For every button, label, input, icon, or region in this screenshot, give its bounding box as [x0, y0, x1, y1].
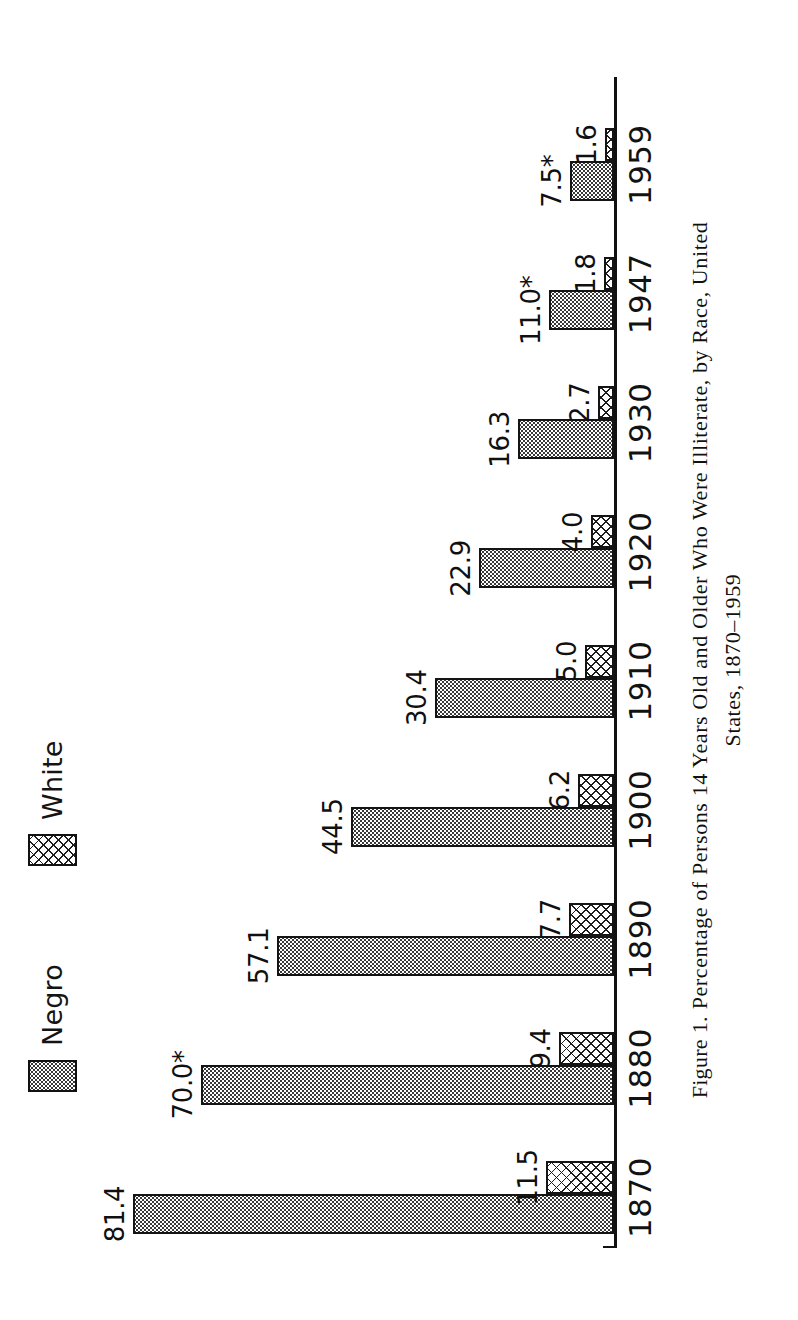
- bar-white: 4.0: [591, 515, 615, 548]
- plot-area: 81.411.570.0*9.457.17.744.56.230.45.022.…: [112, 78, 617, 1240]
- bar-group: 11.0*1.8: [109, 207, 614, 336]
- x-tick-label: 1880: [622, 1028, 658, 1109]
- legend-label-negro: Negro: [37, 964, 68, 1046]
- bar-group: 44.56.2: [109, 724, 614, 853]
- bar-white: 7.7: [569, 903, 615, 936]
- bar-group: 16.32.7: [109, 336, 614, 465]
- bar-value-label-negro: 22.9: [446, 540, 476, 597]
- scanned-figure-page: Negro White 81.411.570.0*9.457.17.744.56…: [0, 0, 798, 1320]
- legend-item-negro: Negro: [22, 964, 82, 1092]
- bar-group: 22.94.0: [109, 465, 614, 594]
- bar-value-label-negro: 7.5*: [537, 155, 567, 208]
- bar-white: 11.5: [546, 1161, 614, 1194]
- bar-value-label-white: 1.8: [571, 254, 601, 294]
- bar-group: 81.411.5: [109, 1111, 614, 1240]
- bar-group: 70.0*9.4: [109, 982, 614, 1111]
- bar-white: 1.6: [605, 128, 614, 161]
- bar-negro: 16.3: [518, 419, 614, 459]
- bar-negro: 30.4: [435, 678, 615, 718]
- bar-negro: 44.5: [351, 807, 614, 847]
- bar-negro: 7.5*: [570, 161, 614, 201]
- bar-value-label-white: 1.6: [572, 124, 602, 164]
- bar-value-label-white: 9.4: [526, 1028, 556, 1068]
- bar-white: 6.2: [578, 774, 615, 807]
- bar-white: 9.4: [559, 1032, 615, 1065]
- legend-label-white: White: [37, 740, 68, 820]
- bar-value-label-negro: 70.0*: [168, 1050, 198, 1119]
- bar-group: 7.5*1.6: [109, 78, 614, 207]
- bar-value-label-negro: 57.1: [244, 927, 274, 984]
- y-axis-tick: [603, 1246, 617, 1248]
- bar-value-label-negro: 11.0*: [516, 276, 546, 345]
- x-tick-label: 1959: [622, 124, 658, 205]
- chart-legend: Negro White: [22, 662, 92, 1092]
- bar-group: 57.17.7: [109, 853, 614, 982]
- x-tick-label: 1920: [622, 512, 658, 593]
- legend-item-white: White: [22, 740, 82, 866]
- bar-value-label-white: 6.2: [545, 770, 575, 810]
- bar-value-label-negro: 16.3: [485, 411, 515, 468]
- bar-value-label-white: 2.7: [565, 383, 595, 423]
- caption-line-1-text: Percentage of Persons 14 Years Old and O…: [687, 222, 712, 1010]
- x-tick-label: 1890: [622, 899, 658, 980]
- bar-value-label-white: 4.0: [558, 512, 588, 552]
- x-tick-label: 1930: [622, 382, 658, 463]
- caption-line-2: States, 1870–1959: [717, 60, 748, 1260]
- bar-value-label-white: 7.7: [536, 899, 566, 939]
- caption-figure-label: Figure 1.: [687, 1016, 712, 1098]
- x-tick-label: 1910: [622, 641, 658, 722]
- bar-negro: 22.9: [479, 548, 614, 588]
- bar-negro: 57.1: [277, 936, 614, 976]
- bar-white: 1.8: [604, 257, 615, 290]
- bar-value-label-negro: 81.4: [100, 1186, 130, 1243]
- bar-value-label-negro: 44.5: [318, 798, 348, 855]
- bar-white: 5.0: [585, 645, 615, 678]
- legend-swatch-negro: [28, 1060, 77, 1092]
- caption-line-1: Figure 1. Percentage of Persons 14 Years…: [678, 60, 717, 1260]
- figure-caption: Figure 1. Percentage of Persons 14 Years…: [678, 60, 748, 1260]
- x-axis-tick-labels: 187018801890190019101920193019471959: [622, 78, 666, 1240]
- bar-value-label-white: 5.0: [552, 641, 582, 681]
- bar-white: 2.7: [598, 386, 614, 419]
- x-axis-baseline: [614, 77, 617, 1248]
- bar-value-label-white: 11.5: [513, 1149, 543, 1206]
- figure-canvas: Negro White 81.411.570.0*9.457.17.744.56…: [0, 0, 798, 1320]
- x-tick-label: 1900: [622, 770, 658, 851]
- x-tick-label: 1870: [622, 1157, 658, 1238]
- x-tick-label: 1947: [622, 253, 658, 334]
- bar-negro: 70.0*: [201, 1065, 615, 1105]
- bar-group: 30.45.0: [109, 594, 614, 723]
- bar-value-label-negro: 30.4: [402, 669, 432, 726]
- legend-swatch-white: [28, 834, 77, 866]
- bar-negro: 11.0*: [549, 290, 614, 330]
